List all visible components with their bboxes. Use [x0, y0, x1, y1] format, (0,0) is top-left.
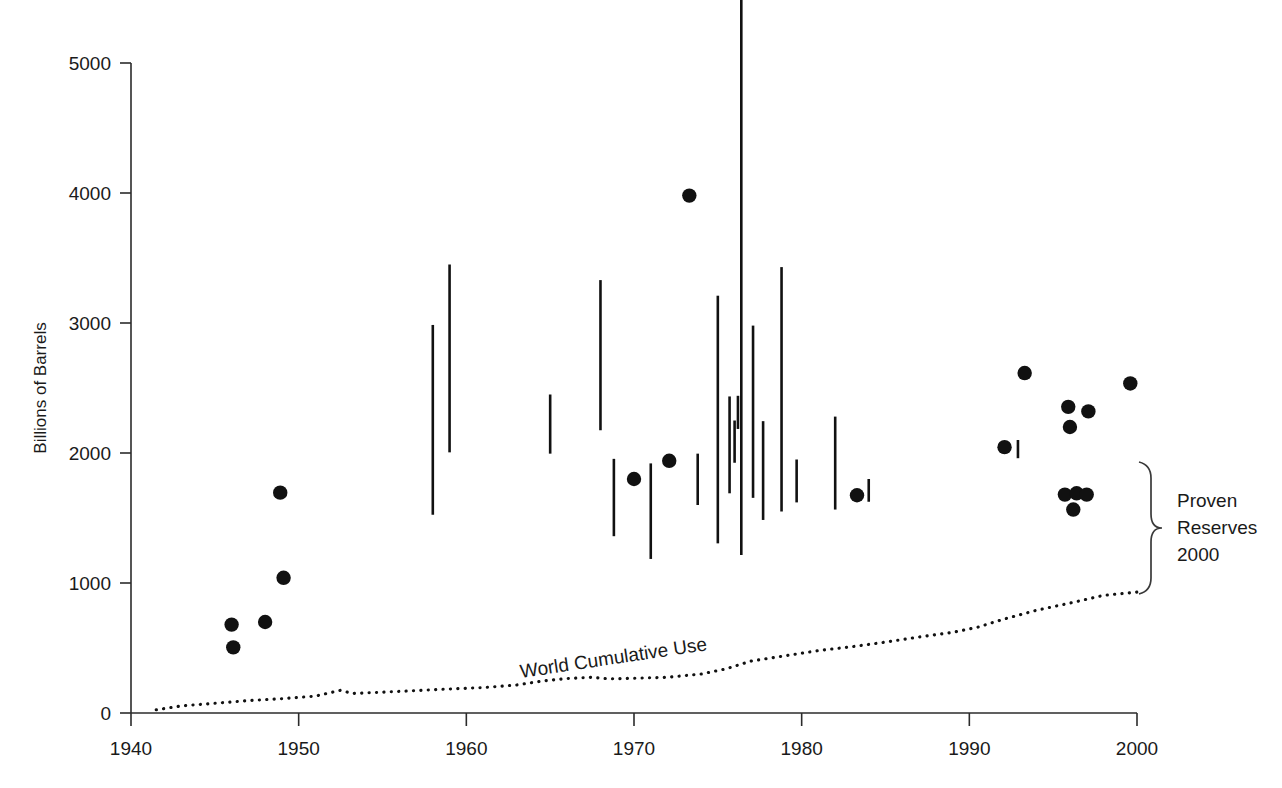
x-tick-label: 1980: [781, 738, 823, 759]
data-point: [1063, 420, 1077, 434]
data-point: [224, 617, 238, 631]
data-point: [662, 454, 676, 468]
data-point: [276, 571, 290, 585]
proven-reserves-annotation: Proven Reserves 2000: [1139, 462, 1257, 594]
y-tick-label: 3000: [69, 313, 111, 334]
data-point: [1061, 400, 1075, 414]
brace-label-line3: 2000: [1177, 544, 1219, 565]
y-tick-label: 0: [100, 703, 111, 724]
brace-label-line2: Reserves: [1177, 517, 1257, 538]
y-tick-label: 2000: [69, 443, 111, 464]
x-tick-label: 2000: [1116, 738, 1158, 759]
data-point: [1123, 376, 1137, 390]
data-point: [997, 440, 1011, 454]
range-bar-group: [433, 0, 1018, 559]
y-axis-title: Billions of Barrels: [31, 322, 50, 453]
world-cumulative-use-label: World Cumulative Use: [518, 633, 708, 682]
brace-label-line1: Proven: [1177, 490, 1237, 511]
data-point: [850, 488, 864, 502]
y-tick-label: 4000: [69, 183, 111, 204]
x-tick-label: 1940: [110, 738, 152, 759]
data-point: [1066, 502, 1080, 516]
x-tick-label: 1990: [948, 738, 990, 759]
x-axis-ticks: 1940195019601970198019902000: [110, 713, 1158, 759]
data-point: [627, 472, 641, 486]
data-point: [226, 640, 240, 654]
data-point: [1080, 487, 1094, 501]
curly-brace-icon: [1139, 462, 1162, 594]
chart-canvas: 010002000300040005000 194019501960197019…: [0, 0, 1282, 788]
x-tick-label: 1970: [613, 738, 655, 759]
x-tick-label: 1950: [278, 738, 320, 759]
y-tick-label: 5000: [69, 53, 111, 74]
data-point: [1081, 404, 1095, 418]
y-tick-label: 1000: [69, 573, 111, 594]
data-point: [682, 188, 696, 202]
data-point: [273, 485, 287, 499]
data-point: [1017, 366, 1031, 380]
point-estimate-group: [224, 188, 1137, 654]
oil-resource-estimates-chart: 010002000300040005000 194019501960197019…: [0, 0, 1282, 788]
x-tick-label: 1960: [445, 738, 487, 759]
data-point: [258, 615, 272, 629]
y-axis-ticks: 010002000300040005000: [69, 53, 131, 724]
